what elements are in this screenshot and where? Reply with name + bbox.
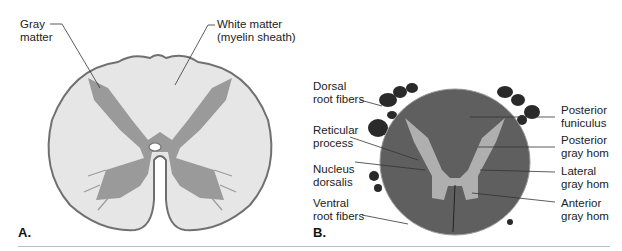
label-posterior-gray-horn: Posterior gray hom [561, 134, 609, 160]
label-gray-matter: Gray matter [20, 18, 53, 44]
label-white-matter: White matter (myelin sheath) [217, 18, 296, 44]
panel-b-histology: Dorsal root fibers Reticular process Nuc… [300, 0, 622, 251]
cord-body [380, 89, 530, 235]
panel-b-letter: B. [313, 225, 326, 240]
central-canal [149, 143, 161, 151]
label-reticular-process: Reticular process [313, 124, 358, 150]
label-posterior-funiculus: Posterior funiculus [561, 104, 607, 130]
label-ventral-root-fibers: Ventral root fibers [313, 197, 364, 223]
label-dorsal-root-fibers: Dorsal root fibers [313, 80, 364, 106]
label-lateral-gray-horn: Lateral gray hom [561, 165, 609, 191]
label-anterior-gray-horn: Anterior gray hom [561, 197, 609, 223]
panel-a-letter: A. [18, 225, 31, 240]
panel-a-schematic: Gray matter White matter (myelin sheath)… [0, 0, 310, 251]
bottom-divider [18, 246, 610, 247]
label-nucleus-dorsalis: Nucleus dorsalis [313, 163, 355, 189]
